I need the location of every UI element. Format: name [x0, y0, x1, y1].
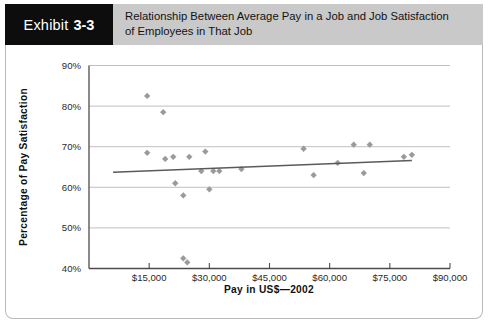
exhibit-figure: Exhibit 3-3 Relationship Between Average…	[0, 0, 488, 325]
data-point	[311, 172, 317, 178]
data-point	[184, 260, 190, 266]
y-tick-label: 60%	[62, 182, 82, 193]
data-point	[170, 154, 176, 160]
x-tick-label: $15,000	[132, 272, 167, 283]
data-point	[180, 255, 186, 261]
x-tick-label: $60,000	[312, 272, 347, 283]
data-point	[401, 154, 407, 160]
y-tick-label: 90%	[62, 60, 82, 71]
y-tick-label: 40%	[62, 263, 82, 274]
data-point	[186, 154, 192, 160]
data-point	[144, 93, 150, 99]
data-point	[162, 156, 168, 162]
scatter-plot: 40%50%60%70%80%90% $15,000$30,000$45,000…	[0, 0, 488, 325]
y-tick-labels: 40%50%60%70%80%90%	[62, 60, 82, 274]
data-point	[409, 152, 415, 158]
y-tick-label: 80%	[62, 101, 82, 112]
x-tick-marks	[149, 263, 450, 269]
x-tick-label: $45,000	[252, 272, 287, 283]
gridlines	[89, 66, 450, 228]
data-point	[202, 149, 208, 155]
data-point	[216, 168, 222, 174]
x-tick-labels: $15,000$30,000$45,000$60,000$75,000$90,0…	[132, 272, 468, 283]
y-axis-title: Percentage of Pay Satisfaction	[18, 88, 29, 246]
data-point	[361, 170, 367, 176]
data-point	[172, 180, 178, 186]
data-points	[144, 93, 415, 265]
y-tick-label: 50%	[62, 222, 82, 233]
y-tick-label: 70%	[62, 141, 82, 152]
x-axis-title: Pay in US$—2002	[224, 284, 314, 295]
x-tick-label: $90,000	[433, 272, 468, 283]
data-point	[180, 193, 186, 199]
x-tick-label: $75,000	[372, 272, 407, 283]
data-point	[144, 150, 150, 156]
x-tick-label: $30,000	[192, 272, 227, 283]
data-point	[160, 109, 166, 115]
trendline	[113, 161, 412, 173]
